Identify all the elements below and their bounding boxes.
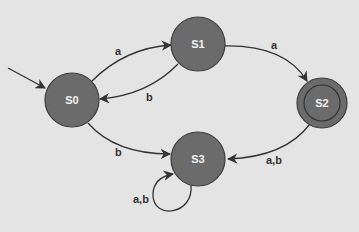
transition-s1-s2: a <box>225 39 307 81</box>
transition-s0-s3: b <box>88 123 170 158</box>
state-diagram: a b a b a,b a,b S0 <box>0 0 359 232</box>
state-label: S2 <box>315 97 328 109</box>
transition-label: b <box>146 91 153 103</box>
transition-s2-s3: a,b <box>228 124 310 166</box>
transition-label: a,b <box>266 154 282 166</box>
transition-s0-s1: a <box>92 45 171 81</box>
transition-label: a <box>115 45 122 57</box>
transition-label: a <box>271 39 278 51</box>
transition-label: b <box>115 146 122 158</box>
state-label: S3 <box>191 153 204 165</box>
transition-s1-s0: b <box>100 64 178 103</box>
state-s3: S3 <box>171 132 225 186</box>
transition-label: a,b <box>133 193 149 205</box>
state-label: S0 <box>65 94 78 106</box>
state-label: S1 <box>191 38 204 50</box>
state-s1: S1 <box>171 17 225 71</box>
state-s0: S0 <box>45 73 99 127</box>
state-s2-accepting: S2 <box>297 78 347 128</box>
start-arrow <box>8 68 45 88</box>
